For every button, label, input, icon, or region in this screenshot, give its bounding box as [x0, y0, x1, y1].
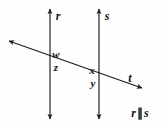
- angle-label-y: y: [91, 78, 96, 89]
- relation-right-line: s: [144, 106, 149, 120]
- line-label-t: t: [128, 72, 131, 84]
- geometry-diagram: r s t w z x y r∥s: [0, 0, 164, 128]
- angle-label-x: x: [89, 65, 95, 76]
- line-label-r: r: [56, 10, 61, 22]
- label-layer: r s t w z x y r∥s: [0, 0, 164, 128]
- angle-label-w: w: [52, 49, 59, 60]
- parallel-relation-note: r∥s: [131, 107, 148, 119]
- angle-label-z: z: [54, 62, 58, 73]
- parallel-symbol-icon: ∥: [136, 106, 144, 120]
- line-label-s: s: [105, 10, 110, 22]
- relation-left-line: r: [131, 106, 136, 120]
